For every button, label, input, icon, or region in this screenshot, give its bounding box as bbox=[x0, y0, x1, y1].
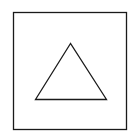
inner-triangle-shape bbox=[36, 44, 107, 100]
diagram-canvas bbox=[0, 0, 131, 134]
diagram-svg bbox=[0, 0, 131, 134]
outer-square-shape bbox=[14, 13, 127, 130]
